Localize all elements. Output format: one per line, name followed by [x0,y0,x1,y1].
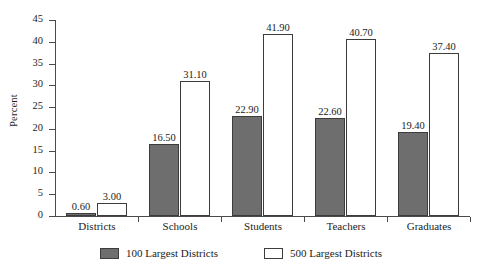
y-axis-tick-label: 35 [5,58,43,68]
x-axis-line [55,216,470,217]
bar: 19.40 [398,132,428,216]
legend-item: 500 Largest Districts [264,247,382,259]
legend-label: 500 Largest Districts [290,247,382,259]
bar: 40.70 [346,39,376,216]
chart-legend: 100 Largest Districts500 Largest Distric… [0,247,482,259]
x-axis-category-label: Graduates [383,220,475,233]
bar: 31.10 [180,81,210,216]
bar: 3.00 [97,203,127,216]
bar-value-label: 19.40 [401,120,425,131]
y-axis-tick-label: 40 [5,36,43,46]
bar-value-label: 22.60 [318,106,342,117]
bar-value-label: 31.10 [183,69,207,80]
x-axis-category-label: Schools [134,220,226,233]
empty-white-swatch [264,248,283,259]
y-axis-tick-label: 30 [5,79,43,89]
bar-value-label: 3.00 [103,191,121,202]
y-axis-tick-label: 5 [5,188,43,198]
bar: 41.90 [263,34,293,216]
bar-chart: Percent 051015202530354045 0.603.0016.50… [0,0,482,273]
y-axis-line [55,20,56,217]
legend-item: 100 Largest Districts [100,247,218,259]
bar-value-label: 40.70 [349,27,373,38]
bar-value-label: 22.90 [235,104,259,115]
bar: 0.60 [66,213,96,216]
bar: 22.60 [315,118,345,216]
bar-value-label: 37.40 [432,41,456,52]
bar-value-label: 0.60 [72,201,90,212]
bar: 22.90 [232,116,262,216]
bar-value-label: 41.90 [266,22,290,33]
y-axis-tick-label: 0 [5,210,43,220]
x-axis-category-label: Districts [51,220,143,233]
y-axis-tick-label: 20 [5,123,43,133]
x-axis-category-label: Teachers [300,220,392,233]
bar: 37.40 [429,53,459,216]
y-axis-tick-label: 25 [5,101,43,111]
bar: 16.50 [149,144,179,216]
x-axis-category-label: Students [217,220,309,233]
filled-gray-swatch [100,248,119,259]
y-axis-tick-label: 45 [5,14,43,24]
y-axis-tick-label: 15 [5,145,43,155]
y-axis-tick-label: 10 [5,166,43,176]
bar-value-label: 16.50 [152,132,176,143]
legend-label: 100 Largest Districts [126,247,218,259]
